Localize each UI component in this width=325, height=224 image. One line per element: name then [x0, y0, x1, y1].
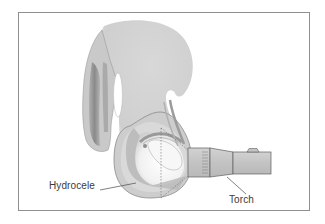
torch [188, 148, 271, 177]
torch-leader-line [227, 177, 246, 194]
hydrocele-label: Hydrocele [49, 180, 95, 191]
torch-label: Torch [229, 194, 254, 205]
